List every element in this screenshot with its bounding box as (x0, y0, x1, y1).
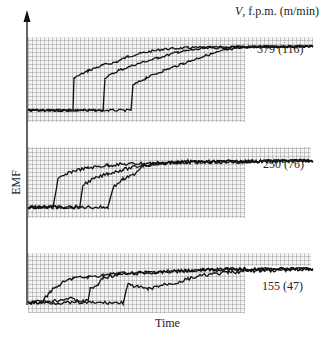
panel-label-155: 155 (47) (262, 279, 303, 294)
y-axis-label: EMF (9, 165, 24, 201)
legend-title: V, f.p.m. (m/min) (235, 4, 319, 19)
panel-label-250: 250 (76) (263, 157, 304, 172)
x-axis-label: Time (155, 316, 180, 331)
figure: V, f.p.m. (m/min) 379 (116) 250 (76) 155… (0, 0, 321, 340)
y-axis-arrow-icon (24, 10, 31, 22)
panel-label-379: 379 (116) (257, 42, 304, 57)
